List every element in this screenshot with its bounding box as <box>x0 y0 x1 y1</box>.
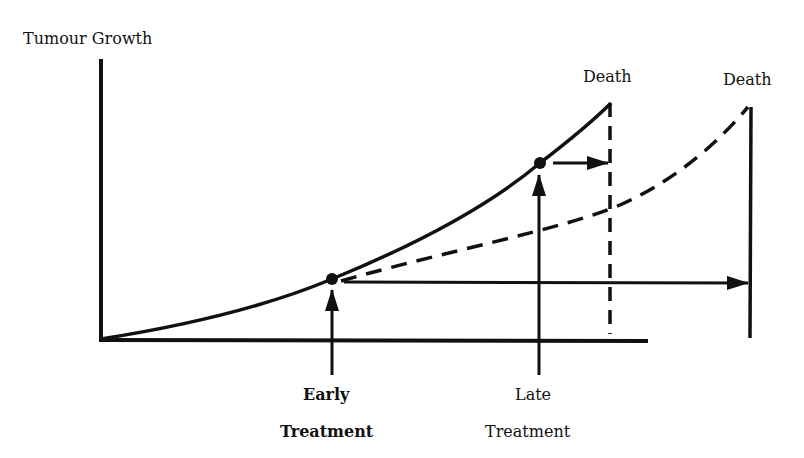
late-treatment-label-line1: Late <box>515 385 551 404</box>
treated-growth-curve <box>341 107 748 281</box>
late-treatment-point <box>534 157 546 169</box>
death-label-treated: Death <box>723 70 772 89</box>
early-treatment-label-line1: Early <box>303 385 349 404</box>
late-treatment-label-line2: Treatment <box>485 422 570 441</box>
death-label-untreated: Death <box>583 67 632 86</box>
untreated-growth-curve <box>101 103 611 339</box>
x-axis <box>99 340 648 341</box>
y-axis-label: Tumour Growth <box>23 29 152 48</box>
death-line-treated <box>750 107 751 338</box>
survival-gain-arrow-early <box>344 282 748 283</box>
early-treatment-point <box>326 273 338 285</box>
tumour-growth-diagram <box>0 0 804 458</box>
early-treatment-label-line2: Treatment <box>280 422 373 441</box>
